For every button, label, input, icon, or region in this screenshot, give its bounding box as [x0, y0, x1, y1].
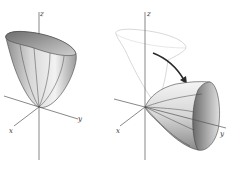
figure-paraboloid-rotated: z y x: [114, 0, 228, 169]
x-axis: [14, 107, 39, 126]
paraboloid-z-diagram: z y x: [0, 0, 114, 169]
x-axis-label: x: [9, 127, 13, 135]
paraboloid-rotated-diagram: z y x: [114, 0, 228, 169]
original-paraboloid-rim: [116, 34, 186, 48]
y-axis-label: y: [219, 130, 225, 138]
y-axis: [39, 107, 78, 119]
y-axis-label: y: [77, 115, 83, 123]
z-axis-label: z: [39, 10, 44, 18]
rotation-arrow: [153, 53, 184, 80]
x-axis: [120, 107, 145, 126]
figure-paraboloid-z: z y x: [0, 0, 114, 169]
x-axis-label: x: [116, 127, 120, 135]
z-axis-label: z: [146, 10, 151, 18]
